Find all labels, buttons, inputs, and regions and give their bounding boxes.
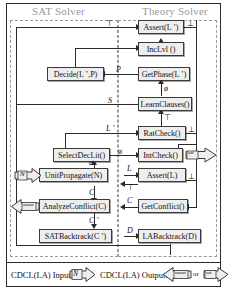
arrowhead-unit-in-true xyxy=(120,181,125,187)
region-sat-solver xyxy=(10,20,118,257)
arrowhead-analyze-c-in xyxy=(120,204,125,210)
node-satbacktrack[interactable]: SATBacktrack(C ’) xyxy=(39,229,112,243)
node-selectdeclit[interactable]: SelectDecLit() xyxy=(53,148,110,162)
node-label: GetPhase(L ’) xyxy=(142,70,187,79)
edge-label-top-true: ⊤ xyxy=(106,19,113,28)
node-labacktrack[interactable]: LABacktrack(D) xyxy=(138,229,201,243)
edge-getphase-to-decide xyxy=(104,74,138,75)
input-arrow-n-label: N xyxy=(20,170,25,178)
node-unitpropagate[interactable]: UnitPropagate(N) xyxy=(39,168,108,182)
node-ratcheck[interactable]: RatCheck() xyxy=(138,126,186,140)
edge-ratcheck-to-learn xyxy=(161,112,162,126)
edge-labacktrack-return xyxy=(16,245,171,246)
edge-right-to-getconflict xyxy=(188,207,197,208)
node-label: RatCheck() xyxy=(144,129,181,138)
node-label: LABacktrack(D) xyxy=(142,232,196,241)
legend-input-text: CDCL(LA) Input: xyxy=(11,270,73,280)
input-arrow-n xyxy=(14,168,42,183)
edge-label-assertl-true: ⊤ xyxy=(127,183,134,192)
node-label: LearnClauses() xyxy=(141,100,190,109)
node-intcheck[interactable]: IntCheck() xyxy=(138,148,183,162)
edge-label-backtrack-cp: C ’ xyxy=(89,216,99,225)
edge-label-conflict-c-in: C xyxy=(89,188,94,197)
edge-right-rail-lower xyxy=(196,190,197,207)
legend-output-text: CDCL(LA) Output: xyxy=(100,270,168,280)
output-arrow-unsat-label: unsat xyxy=(23,202,34,207)
edge-lp-riser xyxy=(65,133,66,149)
edge-label-assertlp-bot: ⊥ xyxy=(187,19,194,28)
legend-output-unsat-label: unsat xyxy=(175,270,186,275)
edge-label-conflict-c: C xyxy=(127,196,132,205)
legend-output-sat-label: sat xyxy=(206,270,212,275)
edge-label-phase-p: P xyxy=(116,65,121,74)
node-label: IntCheck() xyxy=(143,151,178,160)
legend-or-text: or xyxy=(193,270,199,278)
legend-input-symbol: N xyxy=(73,269,78,278)
column-header-sat-solver: SAT Solver xyxy=(32,5,85,17)
node-analyzeconflict[interactable]: AnalyzeConflict(C) xyxy=(39,199,110,213)
node-label: UnitPropagate(N) xyxy=(45,171,102,180)
node-label: Decide(L ’,P) xyxy=(54,70,98,79)
edge-label-getphase-empty: ø xyxy=(164,84,168,93)
edge-label-ratcheck-lp: L ’ xyxy=(106,124,115,133)
edge-intcheck-to-rail xyxy=(178,144,196,145)
column-header-theory-solver: Theory Solver xyxy=(142,5,208,17)
node-getphase[interactable]: GetPhase(L ’) xyxy=(138,67,190,81)
edge-selectdeclit-to-intcheck xyxy=(110,155,138,156)
edge-getconflict-to-analyze xyxy=(124,207,138,208)
edge-learnclauses-s xyxy=(16,104,138,105)
node-label: Assert(L ’) xyxy=(144,23,179,32)
edge-label-unit-empty: ø xyxy=(89,158,93,167)
diagram-root: SAT Solver Theory Solver xyxy=(0,0,228,293)
node-getconflict[interactable]: GetConflict() xyxy=(138,199,188,213)
node-label: IncLvl () xyxy=(147,45,176,54)
edge-learn-to-getphase xyxy=(161,82,162,96)
edge-label-ratcheck-true: ⊤ xyxy=(164,113,171,122)
node-assert-lprime[interactable]: Assert(L ’) xyxy=(138,20,184,34)
node-label: GetConflict() xyxy=(141,202,184,211)
legend-bar: CDCL(LA) Input: N CDCL(LA) Output: unsat… xyxy=(6,262,221,287)
edge-lp-to-ratcheck xyxy=(65,133,138,134)
edge-label-assertl-in: L xyxy=(127,164,131,173)
edge-label-assertl-bot: ⊥ xyxy=(188,172,195,181)
node-label: AnalyzeConflict(C) xyxy=(43,202,107,211)
output-arrow-sat-intcheck-label: sat xyxy=(188,150,194,155)
node-label: SelectDecLit() xyxy=(58,151,105,160)
node-assert-l[interactable]: Assert(L) xyxy=(138,168,186,182)
edge-right-rail xyxy=(196,20,197,190)
node-learnclauses[interactable]: LearnClauses() xyxy=(138,97,192,111)
node-label: SATBacktrack(C ’) xyxy=(45,232,107,241)
node-label: Assert(L) xyxy=(147,171,178,180)
edge-decide-to-inclvl xyxy=(75,48,138,49)
edge-label-intcheck-empty: ø xyxy=(118,147,122,156)
node-decide[interactable]: Decide(L ’,P) xyxy=(47,67,104,81)
node-inclvl[interactable]: IncLvl () xyxy=(138,42,184,56)
edge-label-ratcheck-bot: ⊥ xyxy=(188,125,195,134)
edge-label-backtrack-d: D xyxy=(127,226,133,235)
edge-label-learn-s: S xyxy=(108,96,112,105)
edge-top-rail xyxy=(16,27,138,28)
